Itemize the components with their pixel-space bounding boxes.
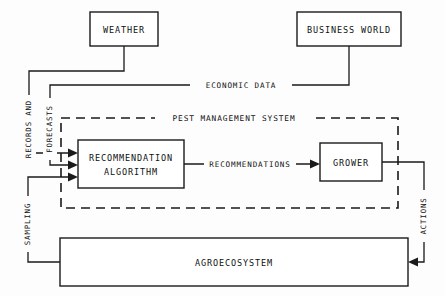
edge-label-records-and: RECORDS AND — [24, 100, 33, 158]
edge-label-actions: ACTIONS — [419, 197, 428, 234]
arrowhead-sampling-icon — [68, 173, 78, 182]
node-recommendation-algorithm-box[interactable] — [78, 140, 184, 188]
node-grower-label: GROWER — [333, 158, 369, 168]
diagram-canvas: PEST MANAGEMENT SYSTEM WEATHER BUSINESS … — [0, 0, 445, 296]
pest-management-system-label: PEST MANAGEMENT SYSTEM — [172, 114, 295, 123]
diagram-svg: PEST MANAGEMENT SYSTEM WEATHER BUSINESS … — [0, 0, 445, 296]
arrowhead-records-icon — [68, 149, 78, 158]
node-agroecosystem-label: AGROECOSYSTEM — [195, 258, 273, 268]
arrowhead-economic-icon — [68, 161, 78, 170]
node-recommendation-algorithm-label-line2: ALGORITHM — [104, 167, 158, 177]
node-business-world-label: BUSINESS WORLD — [307, 25, 391, 35]
edge-label-economic-data: ECONOMIC DATA — [206, 81, 276, 90]
arrowhead-recommendations-icon — [310, 160, 320, 169]
arrowhead-actions-icon — [408, 258, 418, 267]
edge-label-forecasts: FORECASTS — [45, 105, 54, 153]
node-weather-label: WEATHER — [103, 25, 145, 35]
edge-label-sampling: SAMPLING — [23, 203, 32, 245]
edge-label-recommendations: RECOMMENDATIONS — [209, 160, 290, 169]
node-recommendation-algorithm-label-line1: RECOMMENDATION — [89, 153, 173, 163]
